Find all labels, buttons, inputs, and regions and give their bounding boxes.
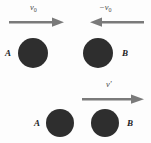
- velocity-arrow-right-v0: [8, 16, 68, 28]
- ball-a-before: [18, 38, 48, 68]
- velocity-arrow-left-neg-v0: [86, 16, 146, 28]
- ball-a-after: [46, 109, 74, 137]
- velocity-label-neg-v0-text: v: [105, 2, 109, 12]
- ball-b-after-label: B: [127, 119, 133, 128]
- physics-collision-figure: v0 −v0 A B v′ A B: [0, 0, 151, 143]
- velocity-label-v0: v0: [30, 3, 37, 12]
- ball-b-before-label: B: [122, 49, 128, 58]
- ball-b-before: [83, 38, 113, 68]
- velocity-label-v-prime: v′: [106, 80, 112, 89]
- velocity-label-v0-subscript: 0: [34, 7, 37, 13]
- velocity-label-neg-v0-subscript: 0: [109, 7, 112, 13]
- ball-a-before-label: A: [5, 49, 11, 58]
- velocity-label-neg-v0: −v0: [99, 3, 112, 12]
- velocity-arrow-right-v-prime: [81, 93, 147, 105]
- ball-b-after: [91, 109, 119, 137]
- ball-a-after-label: A: [34, 119, 40, 128]
